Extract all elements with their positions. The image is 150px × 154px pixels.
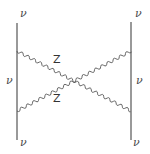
label-nu-bottom-left: ν [20,137,27,148]
label-z-lower: Z [53,93,61,104]
label-z-upper: Z [53,54,61,65]
label-nu-top-right: ν [135,8,142,19]
label-nu-mid-right: ν [136,75,143,86]
label-nu-top-left: ν [20,8,27,19]
z-boson-lower-wavy-line [17,52,131,112]
feynman-diagram [0,0,150,154]
label-nu-bottom-right: ν [133,137,140,148]
label-nu-mid-left: ν [6,75,13,86]
z-boson-upper-wavy-line [17,51,131,112]
